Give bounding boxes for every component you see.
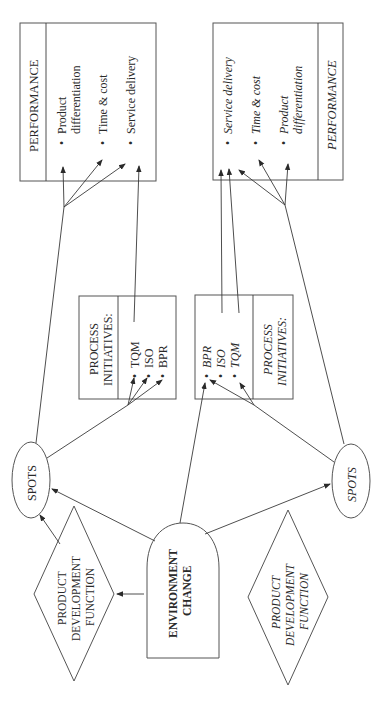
left-performance-box: PERFORMANCE • Product differentiation • … bbox=[20, 23, 156, 181]
environment-change-diagram: PERFORMANCE • Product differentiation • … bbox=[0, 0, 371, 708]
right-spots-node: SPOTS bbox=[332, 444, 370, 518]
left-perf-item-differentiation: differentiation bbox=[69, 66, 83, 134]
left-process-title-2: INITIATIVES: bbox=[101, 313, 115, 386]
left-process-item-iso: ISO bbox=[142, 348, 156, 368]
environment-line2: CHANGE bbox=[181, 565, 193, 616]
right-process-title-2: INITIATIVES: bbox=[275, 317, 289, 387]
bullet: • bbox=[228, 374, 242, 378]
left-pd-line3: FUNCTION bbox=[84, 567, 96, 626]
right-performance-title: PERFORMANCE bbox=[325, 60, 339, 151]
left-pd-line2: DEVELOPMENT bbox=[70, 556, 82, 641]
right-product-development-node: PRODUCT DEVELOPMENT FUNCTION bbox=[248, 510, 328, 685]
right-process-title-1: PROCESS bbox=[261, 324, 275, 376]
left-process-title-1: PROCESS bbox=[87, 323, 101, 375]
environment-change-node: ENVIRONMENT CHANGE bbox=[147, 523, 219, 658]
bullet: • bbox=[55, 141, 69, 145]
left-spots-label: SPOTS bbox=[25, 465, 39, 501]
right-perf-item-differentiation: differentiation bbox=[291, 66, 305, 134]
environment-line1: ENVIRONMENT bbox=[167, 549, 179, 638]
right-perf-item-product: Product bbox=[277, 95, 291, 135]
right-perf-item-time-cost: Time & cost bbox=[249, 75, 263, 134]
left-process-item-tqm: TQM bbox=[128, 341, 142, 368]
left-perf-item-service-delivery: Service delivery bbox=[124, 56, 138, 134]
right-pd-line1: PRODUCT bbox=[270, 574, 282, 630]
bullet: • bbox=[142, 374, 156, 378]
bullet: • bbox=[214, 374, 228, 378]
bullet: • bbox=[221, 141, 235, 145]
right-process-item-bpr: BPR bbox=[200, 345, 214, 368]
bullet: • bbox=[96, 141, 110, 145]
left-spots-node: SPOTS bbox=[12, 442, 50, 518]
left-perf-item-product: Product bbox=[55, 96, 69, 134]
bullet: • bbox=[249, 141, 263, 145]
right-process-item-iso: ISO bbox=[214, 349, 228, 369]
right-perf-item-service-delivery: Service delivery bbox=[221, 56, 235, 134]
left-process-item-bpr: BPR bbox=[156, 345, 170, 368]
right-pd-line3: FUNCTION bbox=[298, 572, 310, 631]
bullet: • bbox=[156, 374, 170, 378]
left-pd-line1: PRODUCT bbox=[56, 571, 68, 625]
bullet: • bbox=[128, 374, 142, 378]
left-perf-item-time-cost: Time & cost bbox=[96, 74, 110, 134]
bullet: • bbox=[124, 141, 138, 145]
left-performance-title: PERFORMANCE bbox=[27, 59, 41, 152]
left-product-development-node: PRODUCT DEVELOPMENT FUNCTION bbox=[34, 506, 114, 681]
left-process-box: PROCESS INITIATIVES: • TQM • ISO • BPR bbox=[79, 296, 176, 399]
right-spots-label: SPOTS bbox=[345, 467, 359, 502]
right-pd-line2: DEVELOPMENT bbox=[284, 563, 296, 647]
right-performance-box: PERFORMANCE • Service delivery • Time & … bbox=[213, 23, 343, 180]
bullet: • bbox=[200, 374, 214, 378]
right-process-item-tqm: TQM bbox=[228, 342, 242, 368]
bullet: • bbox=[277, 141, 291, 145]
right-process-box: • BPR • ISO • TQM PROCESS INITIATIVES: bbox=[195, 295, 293, 399]
